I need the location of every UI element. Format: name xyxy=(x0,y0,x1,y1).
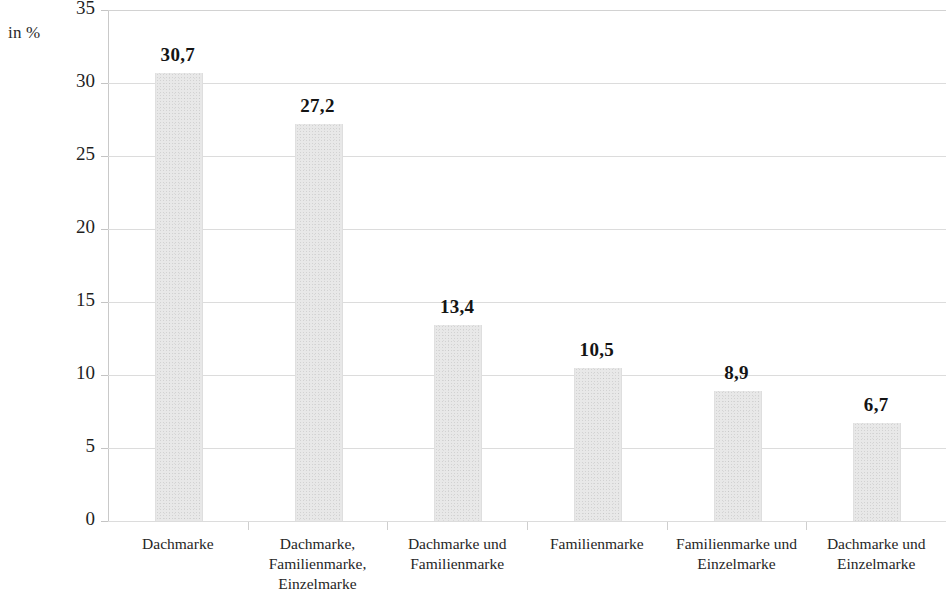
bar-value-label: 13,4 xyxy=(397,296,517,318)
gridline xyxy=(108,229,946,230)
y-axis-tick-label: 25 xyxy=(50,143,95,165)
bar-value-label: 27,2 xyxy=(258,95,378,117)
x-axis-tick-mark xyxy=(527,522,528,530)
x-axis-category-label: Dachmarke xyxy=(103,534,253,554)
y-axis-tick-label: 10 xyxy=(50,362,95,384)
gridline xyxy=(108,10,946,11)
x-axis-category-label: Familienmarke und Einzelmarke xyxy=(662,534,812,574)
y-axis-tick-label: 15 xyxy=(50,289,95,311)
y-axis-tick-label: 20 xyxy=(50,216,95,238)
plot-area xyxy=(108,10,946,521)
gridline xyxy=(108,302,946,303)
bar xyxy=(295,124,343,521)
bar-value-label: 8,9 xyxy=(677,362,797,384)
bar xyxy=(853,423,901,521)
gridline xyxy=(108,156,946,157)
bar xyxy=(714,391,762,521)
x-axis-category-label: Familienmarke xyxy=(522,534,672,554)
bar-chart: in % 05101520253035 30,727,213,410,58,96… xyxy=(0,0,952,598)
y-axis-tick-mark xyxy=(101,521,108,522)
gridline xyxy=(108,448,946,449)
y-axis-tick-mark xyxy=(101,83,108,84)
bar-value-label: 30,7 xyxy=(118,44,238,66)
x-axis-category-label: Dachmarke und Einzelmarke xyxy=(801,534,951,574)
bar xyxy=(155,73,203,521)
x-axis-tick-mark xyxy=(248,522,249,530)
y-axis-tick-label: 30 xyxy=(50,70,95,92)
y-axis-tick-mark xyxy=(101,375,108,376)
y-axis-tick-mark xyxy=(101,302,108,303)
y-axis-tick-label: 5 xyxy=(50,435,95,457)
y-axis-tick-label: 0 xyxy=(50,508,95,530)
bar-value-label: 10,5 xyxy=(537,339,657,361)
x-axis-category-label: Dachmarke und Familienmarke xyxy=(382,534,532,574)
x-axis-tick-mark xyxy=(667,522,668,530)
x-axis-tick-mark xyxy=(806,522,807,530)
bar xyxy=(434,325,482,521)
y-axis-tick-label: 35 xyxy=(50,0,95,19)
y-axis-tick-mark xyxy=(101,229,108,230)
y-axis-tick-mark xyxy=(101,156,108,157)
x-axis-tick-mark xyxy=(387,522,388,530)
y-axis-unit-label: in % xyxy=(8,23,40,43)
gridline xyxy=(108,83,946,84)
y-axis-tick-mark xyxy=(101,10,108,11)
gridline xyxy=(108,375,946,376)
x-axis-category-label: Dachmarke, Familienmarke, Einzelmarke xyxy=(243,534,393,594)
y-axis-tick-mark xyxy=(101,448,108,449)
bar xyxy=(574,368,622,521)
bar-value-label: 6,7 xyxy=(816,394,936,416)
